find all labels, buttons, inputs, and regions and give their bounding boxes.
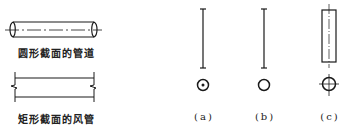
variant-b-drawing [259,9,270,91]
rect-duct-label: 矩形截面的风管 [18,111,95,126]
variant-a-label: (a) [194,111,214,122]
round-pipe-label: 圆形截面的管道 [18,45,95,60]
rect-duct-drawing [11,72,96,102]
round-pipe-drawing [5,22,102,37]
variant-c-label: (c) [320,111,339,122]
variant-a-drawing [198,9,209,91]
variant-b-label: (b) [255,111,275,122]
variant-c-drawing [319,4,339,96]
